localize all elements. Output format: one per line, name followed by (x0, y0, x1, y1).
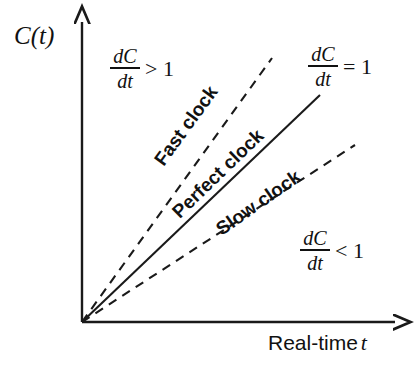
perfect-clock-numerator: dC (309, 44, 336, 65)
y-axis-label: C(t) (14, 22, 54, 50)
fast-clock-numerator: dC (111, 46, 138, 67)
perfect-clock-fraction: dC dt (308, 44, 338, 89)
fast-clock-equation: dC dt > 1 (110, 46, 174, 91)
clock-drift-diagram: C(t) Real-timet dC dt > 1 dC dt = 1 dC d… (0, 0, 418, 370)
perfect-clock-equation: dC dt = 1 (308, 44, 372, 89)
fast-clock-relation: > 1 (145, 56, 174, 82)
slow-clock-denominator: dt (305, 251, 325, 273)
perfect-clock-line (82, 95, 320, 322)
x-axis-label: Real-timet (268, 330, 367, 356)
fast-clock-line (82, 58, 272, 322)
fast-clock-denominator: dt (115, 69, 135, 91)
slow-clock-relation: < 1 (335, 238, 364, 264)
slow-clock-equation: dC dt < 1 (300, 228, 364, 273)
x-axis-label-text: Real-time (268, 331, 358, 354)
slow-clock-fraction: dC dt (300, 228, 330, 273)
perfect-clock-relation: = 1 (343, 54, 372, 80)
perfect-clock-denominator: dt (313, 67, 333, 89)
slow-clock-numerator: dC (301, 228, 328, 249)
fast-clock-fraction: dC dt (110, 46, 140, 91)
x-axis-label-variable: t (361, 330, 367, 355)
